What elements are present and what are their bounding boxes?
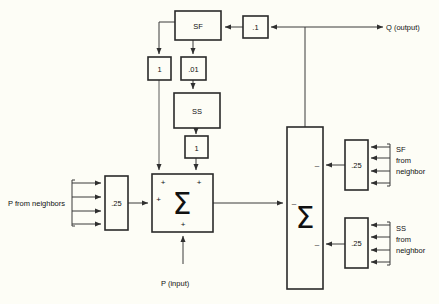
label-ss-from-neighbor-line1: SS bbox=[396, 224, 406, 233]
sign-left-summer-bottom: + bbox=[181, 220, 186, 229]
sign-right-summer-sf-input: – bbox=[315, 161, 320, 170]
wire-p-from-neighbors-inputs bbox=[72, 180, 101, 226]
diagram-canvas: SF .1 1 .01 SS 1 .25 .25 .25 Σ Σ + + + +… bbox=[0, 0, 439, 304]
label-p-from-neighbors: P from neighbors bbox=[8, 199, 65, 208]
block-sf-label: SF bbox=[193, 22, 203, 31]
block-gain-quarter-ss-label: .25 bbox=[351, 239, 361, 248]
sign-left-summer-top-right: + bbox=[197, 178, 202, 187]
sign-right-summer-ss-input: – bbox=[315, 240, 320, 249]
block-ss-label: SS bbox=[192, 107, 202, 116]
label-ss-from-neighbor: SS from neighbor bbox=[396, 224, 426, 255]
wire-sf-from-neighbor-inputs bbox=[371, 144, 390, 186]
label-sf-from-neighbor-line1: SF bbox=[396, 145, 406, 154]
wire-ss-from-neighbor-inputs bbox=[371, 222, 390, 265]
block-gain-quarter-sf-label: .25 bbox=[351, 161, 361, 170]
block-diagram: SF .1 1 .01 SS 1 .25 .25 .25 Σ Σ + + + +… bbox=[0, 0, 439, 304]
block-gain-point-one-label: .1 bbox=[252, 23, 258, 32]
wire-output-bus bbox=[271, 27, 383, 127]
label-p-input: P (input) bbox=[161, 279, 190, 288]
block-gain-one-left-label: 1 bbox=[157, 65, 161, 74]
sign-right-summer-main-input: – bbox=[292, 199, 297, 208]
block-gain-point-zero-one-label: .01 bbox=[188, 65, 198, 74]
label-sf-from-neighbor-line3: neighbor bbox=[396, 167, 426, 176]
label-sf-from-neighbor: SF from neighbor bbox=[396, 145, 426, 176]
block-gain-one-lower-label: 1 bbox=[194, 144, 198, 153]
label-output: Q (output) bbox=[386, 23, 420, 32]
label-ss-from-neighbor-line2: from bbox=[396, 235, 411, 244]
block-summer-right-label: Σ bbox=[296, 200, 315, 235]
wire-sf-to-gain-one-left bbox=[159, 22, 175, 54]
block-gain-quarter-p-label: .25 bbox=[111, 199, 121, 208]
block-summer-left-label: Σ bbox=[173, 186, 192, 221]
label-ss-from-neighbor-line3: neighbor bbox=[396, 246, 426, 255]
label-sf-from-neighbor-line2: from bbox=[396, 156, 411, 165]
sign-left-summer-left: + bbox=[156, 195, 161, 204]
sign-left-summer-top-left: + bbox=[161, 178, 166, 187]
